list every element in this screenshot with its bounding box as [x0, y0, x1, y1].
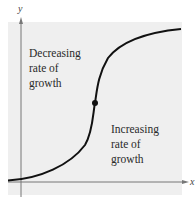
x-axis-arrow-icon	[182, 180, 189, 184]
s-curve-diagram: y x Decreasing rate of growth Increasing…	[0, 0, 196, 203]
inflection-point-dot	[92, 100, 98, 106]
y-axis-arrow-icon	[19, 17, 23, 24]
x-axis-label: x	[189, 176, 195, 187]
y-axis-label: y	[17, 3, 23, 14]
